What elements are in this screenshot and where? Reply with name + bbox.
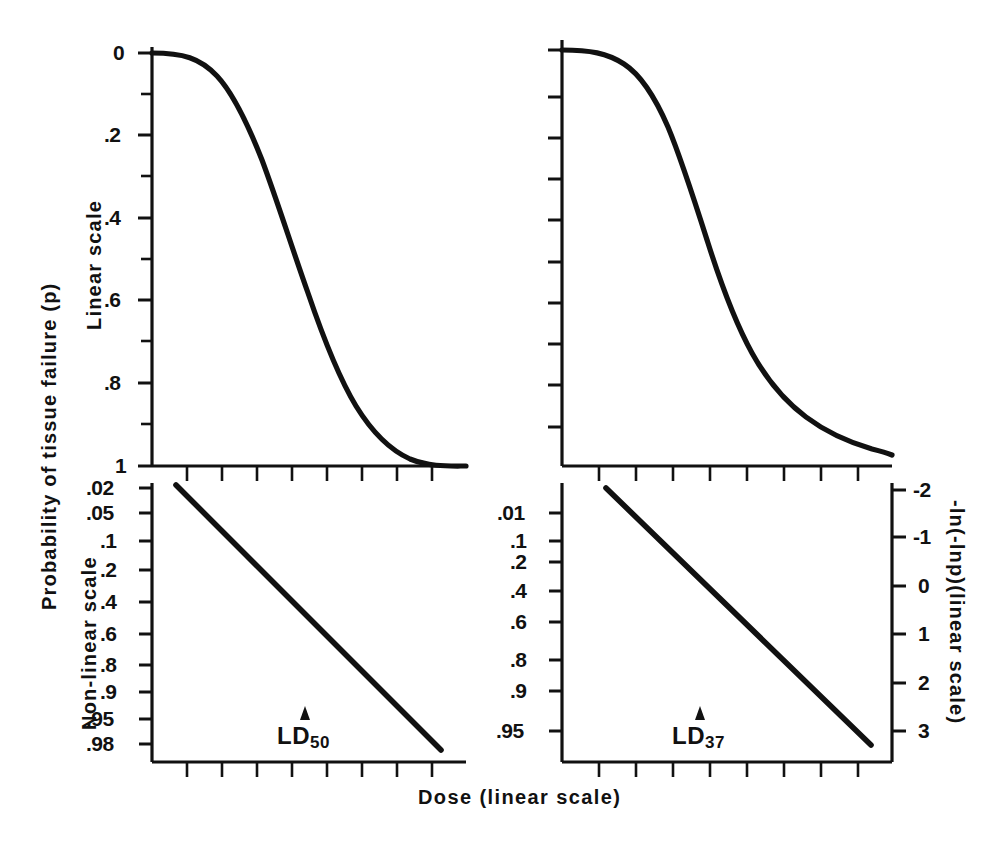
- x-axis-main-title: Dose (linear scale): [418, 786, 621, 809]
- tick-label-bl-5: .6: [100, 622, 117, 646]
- top-right-y-ticks: [548, 50, 562, 427]
- tick-label-br-3: .4: [510, 579, 527, 603]
- bottom-right-line: [606, 488, 871, 745]
- tick-label-bl-9: .98: [86, 732, 114, 756]
- ld37-annotation: LD37: [672, 722, 725, 753]
- tick-label-br-5: .8: [510, 648, 527, 672]
- tick-label-bl-6: .8: [100, 653, 117, 677]
- tick-label-tl-1: .2: [104, 123, 121, 147]
- tick-label-tl-0: 0: [113, 41, 124, 65]
- top-left-x-ticks: [187, 466, 432, 481]
- ld50-base: LD: [277, 722, 310, 749]
- panel-bottom-right: [549, 483, 906, 777]
- bottom-left-x-ticks: [187, 762, 432, 777]
- bottom-left-line: [176, 485, 441, 750]
- tick-label-br-6: .9: [510, 679, 527, 703]
- top-right-curve: [562, 50, 892, 455]
- ld50-subscript: 50: [310, 733, 330, 752]
- tick-label-tl-5: 1: [115, 454, 126, 478]
- tick-label-br-0: .01: [497, 501, 525, 525]
- y-axis-title-double-log: -ln(-lnp)(linear scale): [945, 500, 968, 724]
- tick-label-bl-1: .05: [86, 501, 114, 525]
- tick-label-bl-3: .2: [100, 558, 117, 582]
- top-left-y-minor-ticks: [141, 94, 152, 424]
- bottom-right-x-ticks: [599, 762, 858, 777]
- right-axis-label-4: 2: [918, 671, 929, 695]
- top-left-curve: [152, 53, 466, 466]
- panel-top-right: [548, 40, 892, 481]
- ld50-arrow-icon: [300, 706, 310, 720]
- y-axis-title-linear-scale: Linear scale: [83, 200, 106, 330]
- top-right-x-ticks: [599, 466, 858, 481]
- figure-root: 0 .2 .4 .6 .8 1 .02 .05 .1 .2 .4 .6 .8 .…: [0, 0, 1006, 846]
- right-axis-label-3: 1: [918, 622, 929, 646]
- tick-label-tl-3: .6: [104, 288, 121, 312]
- tick-label-bl-0: .02: [86, 476, 114, 500]
- right-axis-label-5: 3: [918, 719, 929, 743]
- ld37-subscript: 37: [705, 733, 725, 752]
- right-axis-label-1: -1: [913, 525, 931, 549]
- tick-label-br-2: .2: [510, 550, 527, 574]
- tick-label-bl-4: .4: [100, 590, 117, 614]
- panel-top-left: [138, 47, 466, 481]
- tick-label-br-7: .95: [496, 719, 524, 743]
- bottom-right-y-ticks: [549, 513, 562, 731]
- tick-label-br-4: .6: [510, 610, 527, 634]
- right-axis-label-2: 0: [918, 574, 929, 598]
- tick-label-bl-2: .1: [100, 529, 117, 553]
- y-axis-main-title: Probability of tissue failure (p): [38, 283, 61, 610]
- right-axis-label-0: -2: [913, 478, 931, 502]
- ld37-base: LD: [672, 722, 705, 749]
- ld50-annotation: LD50: [277, 722, 330, 753]
- ld37-arrow-icon: [695, 706, 705, 720]
- tick-label-tl-2: .4: [104, 206, 121, 230]
- tick-label-tl-4: .8: [104, 371, 121, 395]
- bottom-right-right-ticks: [892, 490, 906, 731]
- bottom-left-y-ticks: [139, 488, 152, 744]
- tick-label-bl-7: .9: [100, 680, 117, 704]
- y-axis-title-nonlinear-scale: Non-linear scale: [78, 556, 101, 730]
